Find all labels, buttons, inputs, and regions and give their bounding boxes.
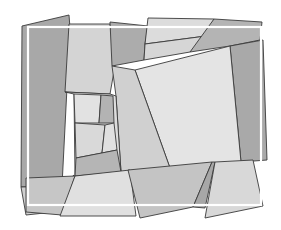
- polygon-layer: [21, 15, 267, 218]
- top-mid-dark-panel: [110, 22, 148, 66]
- small-pale-cell-top: [74, 94, 101, 123]
- top-left-light-panel: [65, 24, 116, 94]
- abstract-composition: [0, 0, 281, 230]
- small-pale-cell-bottom: [75, 123, 105, 158]
- small-dark-cell: [99, 95, 114, 123]
